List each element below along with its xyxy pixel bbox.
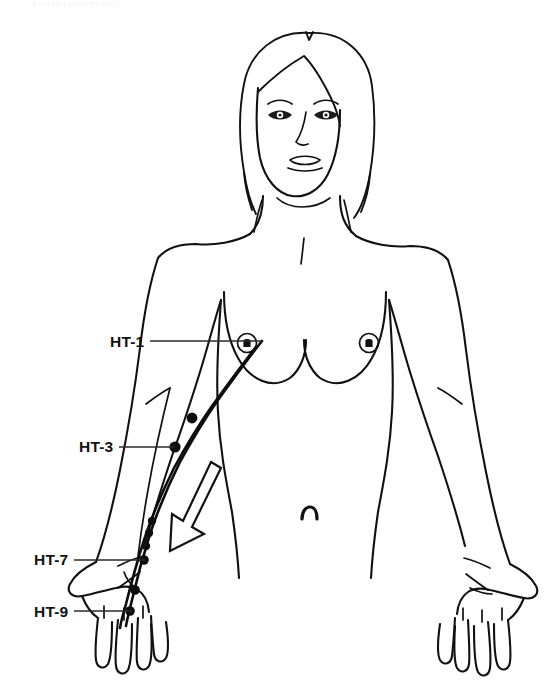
acupoint-dot-ht6 [142, 542, 150, 550]
right-finger-middle [474, 622, 490, 675]
mouth-lower-line [288, 168, 322, 171]
right-finger-little [438, 618, 455, 663]
acupoint-label-ht7: HT-7 [34, 551, 68, 569]
left-finger-index [96, 618, 112, 667]
left-eyebrow [268, 100, 292, 104]
right-finger-ring [454, 620, 469, 671]
right-arm-inner-contour [389, 300, 465, 546]
right-breast [304, 292, 386, 383]
flow-direction-arrow [170, 462, 221, 551]
heart-meridian-line [120, 341, 262, 628]
face-outline [257, 88, 340, 196]
meridian-path-primary [126, 341, 262, 626]
acupoint-dot-ht2 [187, 413, 198, 424]
navel [302, 507, 317, 519]
torso-group [217, 292, 393, 578]
left-arm-group [96, 258, 221, 566]
torso-right-side [371, 300, 393, 578]
nose [296, 112, 308, 145]
body-diagram-svg [0, 0, 546, 693]
left-finger-little [151, 616, 168, 661]
right-wrist-line [464, 558, 490, 568]
neck-crease [277, 198, 330, 207]
right-eye [314, 111, 338, 120]
acupoint-label-ht9: HT-9 [34, 603, 68, 621]
flow-arrow-shape [170, 462, 221, 551]
label-leader-lines [74, 341, 262, 611]
neck-and-shoulders [158, 196, 448, 264]
left-finger-ring [137, 618, 152, 669]
left-breast [224, 292, 306, 383]
acupoint-dot-ht4 [148, 517, 156, 525]
acupoint-dot-ht8 [130, 585, 140, 595]
acupoint-label-ht3: HT-3 [79, 438, 113, 456]
left-hand-group [69, 562, 168, 673]
meridian-path-parallel [120, 347, 256, 628]
acupoint-dot-ht5 [145, 529, 153, 537]
right-hand-outline [457, 564, 537, 614]
right-nipple [360, 334, 379, 353]
head-group [240, 32, 374, 218]
left-eye [268, 111, 292, 120]
suprasternal-notch [301, 238, 304, 264]
mouth [290, 156, 320, 164]
meridian-chart-figure: ACUPUNCTURE [0, 0, 546, 693]
acupoint-label-ht1: HT-1 [110, 333, 144, 351]
left-thumb [82, 596, 98, 618]
right-arm-antecubital-crease [438, 388, 462, 404]
right-hand-group [438, 564, 537, 675]
right-finger-index [494, 620, 510, 669]
shoulder-line-right [356, 236, 448, 260]
right-arm-group [389, 260, 510, 568]
left-finger-middle [116, 620, 132, 673]
left-arm-outer-contour [96, 258, 158, 562]
right-thumb [508, 598, 524, 620]
shoulder-line-left [158, 234, 250, 258]
left-forearm-muscle-line [138, 388, 170, 556]
